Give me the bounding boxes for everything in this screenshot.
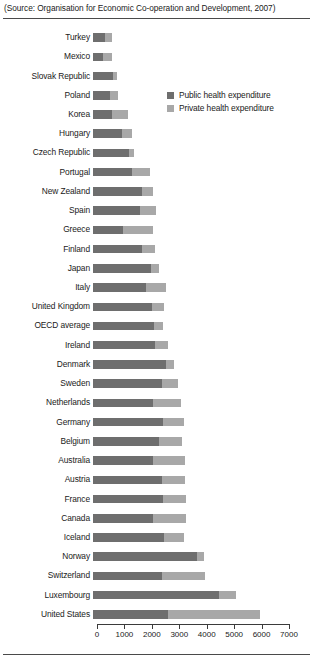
chart-row: Slovak Republic — [0, 66, 313, 85]
chart-row: Iceland — [0, 528, 313, 547]
bar-segment-private — [122, 129, 133, 138]
bar-segment-public — [93, 533, 164, 542]
bar-segment-private — [154, 322, 163, 331]
bar-segment-private — [219, 591, 235, 600]
x-axis-tick — [289, 624, 290, 629]
bar-track — [93, 124, 313, 143]
category-label: Australia — [0, 456, 93, 465]
bar-segment-public — [93, 552, 197, 561]
chart-row: Portugal — [0, 163, 313, 182]
category-label: Switzerland — [0, 571, 93, 580]
category-label: Germany — [0, 418, 93, 427]
bar-segment-private — [163, 418, 184, 427]
bar-segment-private — [153, 514, 186, 523]
bar-segment-private — [197, 552, 204, 561]
category-label: France — [0, 495, 93, 504]
x-axis-tick — [234, 624, 235, 629]
category-label: Finland — [0, 245, 93, 254]
legend-item-public: Public health expenditure — [167, 90, 309, 100]
x-axis-tick-label: 1000 — [116, 630, 134, 640]
bar-segment-private — [129, 149, 134, 158]
x-axis-tick-label: 0 — [95, 630, 99, 640]
bar-segment-private — [112, 110, 128, 119]
bar-segment-public — [93, 514, 153, 523]
legend-swatch-public — [167, 92, 174, 99]
bar-segment-private — [103, 53, 112, 62]
bar-track — [93, 297, 313, 316]
category-label: Poland — [0, 91, 93, 100]
chart-row: Australia — [0, 451, 313, 470]
bar-track — [93, 163, 313, 182]
category-label: Canada — [0, 514, 93, 523]
chart-row: Canada — [0, 509, 313, 528]
category-label: OECD average — [0, 321, 93, 330]
bar-segment-private — [163, 495, 186, 504]
bar-segment-public — [93, 610, 168, 619]
bar-track — [93, 605, 313, 624]
chart-row: Belgium — [0, 432, 313, 451]
category-label: United Kingdom — [0, 302, 93, 311]
bar-track — [93, 413, 313, 432]
bar-segment-private — [153, 399, 180, 408]
bar-segment-private — [162, 379, 178, 388]
category-label: Norway — [0, 552, 93, 561]
bar-segment-public — [93, 72, 113, 81]
x-axis-tick — [262, 624, 263, 629]
bottom-divider-rule — [3, 654, 310, 655]
bar-segment-public — [93, 379, 162, 388]
bar-track — [93, 374, 313, 393]
bar-segment-public — [93, 129, 122, 138]
category-label: Czech Republic — [0, 148, 93, 157]
x-axis-tick-label: 3000 — [170, 630, 188, 640]
category-label: Spain — [0, 206, 93, 215]
bar-track — [93, 28, 313, 47]
x-axis-tick-label: 6000 — [253, 630, 271, 640]
category-label: Iceland — [0, 533, 93, 542]
category-label: Belgium — [0, 437, 93, 446]
category-label: Hungary — [0, 129, 93, 138]
bar-segment-private — [162, 476, 185, 485]
bar-segment-public — [93, 33, 105, 42]
category-label: Japan — [0, 264, 93, 273]
x-axis-tick-label: 2000 — [143, 630, 161, 640]
bar-segment-public — [93, 91, 110, 100]
bar-segment-private — [151, 264, 159, 273]
bar-segment-private — [140, 206, 156, 215]
category-label: United States — [0, 610, 93, 619]
x-axis-line — [97, 624, 289, 625]
chart-row: OECD average — [0, 316, 313, 335]
bar-segment-public — [93, 110, 112, 119]
bar-track — [93, 393, 313, 412]
bar-segment-private — [153, 456, 185, 465]
bar-segment-public — [93, 53, 103, 62]
bar-segment-public — [93, 303, 152, 312]
bar-segment-private — [142, 245, 154, 254]
chart-row: Czech Republic — [0, 143, 313, 162]
bar-track — [93, 220, 313, 239]
chart-legend: Public health expenditurePrivate health … — [167, 90, 309, 116]
chart-row: Turkey — [0, 28, 313, 47]
bar-track — [93, 586, 313, 605]
bar-track — [93, 566, 313, 585]
bar-track — [93, 278, 313, 297]
bar-track — [93, 47, 313, 66]
legend-label-private: Private health expenditure — [179, 103, 274, 113]
bar-track — [93, 201, 313, 220]
category-label: Korea — [0, 110, 93, 119]
chart-row: Luxembourg — [0, 586, 313, 605]
bar-track — [93, 143, 313, 162]
bar-segment-public — [93, 264, 151, 273]
bar-track — [93, 451, 313, 470]
chart-row: Netherlands — [0, 393, 313, 412]
bar-segment-private — [162, 572, 206, 581]
bar-track — [93, 528, 313, 547]
bar-segment-public — [93, 591, 219, 600]
bar-segment-public — [93, 360, 166, 369]
bar-segment-public — [93, 206, 140, 215]
category-label: Ireland — [0, 341, 93, 350]
x-axis-tick — [152, 624, 153, 629]
chart-row: France — [0, 489, 313, 508]
bar-track — [93, 509, 313, 528]
chart-row: Switzerland — [0, 566, 313, 585]
category-label: Netherlands — [0, 398, 93, 407]
